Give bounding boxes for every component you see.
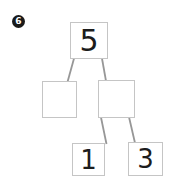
root-number-value: 5 (79, 26, 98, 56)
right-grandchild-right-number-box: 3 (128, 142, 163, 176)
connector-right-child-to-grandchild-left (101, 118, 107, 145)
worksheet-number-bond-problem: 6 5 1 3 (0, 0, 177, 192)
right-child-answer-box[interactable] (98, 80, 135, 118)
right-grandchild-right-value: 3 (137, 146, 154, 172)
root-number-box: 5 (70, 22, 108, 59)
right-grandchild-left-value: 1 (80, 147, 97, 173)
left-child-answer-box[interactable] (42, 81, 77, 118)
connector-right-child-to-grandchild-right (129, 117, 135, 143)
connector-root-to-right-child (102, 59, 106, 82)
problem-number: 6 (15, 17, 21, 26)
problem-number-badge: 6 (12, 15, 25, 28)
connector-root-to-left-child (68, 59, 75, 83)
right-grandchild-left-number-box: 1 (72, 143, 105, 176)
